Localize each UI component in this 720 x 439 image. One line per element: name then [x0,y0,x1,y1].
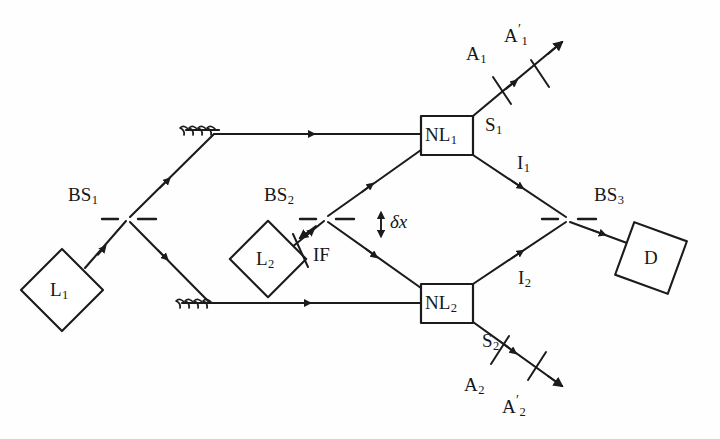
label-bs2: BS2 [264,185,294,204]
optical-diagram-figure: BS1 BS2 BS3 L1 L2 D NL1 NL2 IF S1 S2 I1 … [0,0,720,439]
label-crystal-nl1: NL1 [425,125,457,144]
label-displacement-deltax: δx [390,212,407,231]
beam-bs2-reflection-left [300,226,316,238]
label-idler-1: I1 [517,153,530,172]
label-interference-filter: IF [313,245,330,264]
label-signal-1: S1 [485,115,502,134]
label-laser-1: L1 [50,280,68,299]
label-crystal-nl2: NL2 [425,293,457,312]
analyzer-a1-element[interactable] [493,77,511,104]
beam-bs1-to-mirror-top [130,134,214,217]
beam-bs3-to-detector [570,222,627,243]
label-signal-2: S2 [482,331,499,350]
beam-bs1-to-mirror-bottom [130,222,210,303]
optics-schematic-canvas [0,0,720,439]
label-analyzer-a1: A1 [466,44,486,63]
analyzer-a2-prime-element[interactable] [528,352,546,380]
label-detector: D [644,248,658,267]
label-analyzer-a1-prime: A′1 [504,26,528,45]
label-bs3: BS3 [594,185,624,204]
label-idler-2: I2 [518,268,531,287]
label-analyzer-a2: A2 [464,375,484,394]
analyzer-a1-prime-element[interactable] [531,60,549,87]
label-bs1: BS1 [68,185,98,204]
beam-l1-to-bs1 [85,221,126,268]
beam-bs2-to-nl1 [328,150,421,216]
mirror-bottom-element[interactable] [176,299,215,308]
label-analyzer-a2-prime: A′2 [502,397,526,416]
label-laser-2: L2 [256,249,274,268]
